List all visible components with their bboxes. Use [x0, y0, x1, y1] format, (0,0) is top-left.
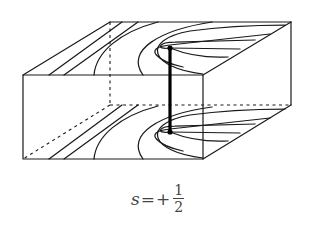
plus-sign: +	[156, 189, 170, 209]
box-hidden-edges	[23, 22, 291, 159]
box-front-face	[23, 75, 203, 159]
fraction: 1 2	[173, 183, 184, 214]
fraction-denominator: 2	[173, 199, 184, 214]
fraction-numerator: 1	[173, 183, 184, 199]
strength-caption: s = + 1 2	[0, 183, 315, 214]
defect-point-bottom	[167, 129, 172, 134]
defect-point-top	[167, 45, 172, 50]
bottom-layer-curves	[49, 105, 285, 159]
equals-sign: =	[141, 189, 155, 209]
top-layer-curves	[49, 22, 285, 75]
strength-symbol: s	[131, 189, 140, 209]
box-right-face	[203, 22, 291, 159]
